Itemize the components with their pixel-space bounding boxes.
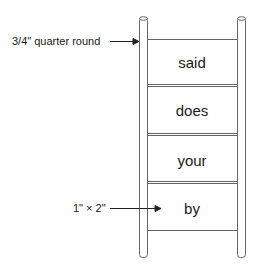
annotation-quarter-round: 3/4" quarter round xyxy=(12,36,100,47)
rung-label-1: said xyxy=(147,55,237,70)
arrowhead-icon xyxy=(133,39,139,45)
right-rail xyxy=(238,18,246,258)
annotation-rung-size: 1" × 2" xyxy=(73,203,106,214)
rung-label-4: by xyxy=(147,201,237,216)
rung-label-3: your xyxy=(147,153,237,168)
left-rail xyxy=(140,18,148,258)
rung-label-2: does xyxy=(147,103,237,118)
